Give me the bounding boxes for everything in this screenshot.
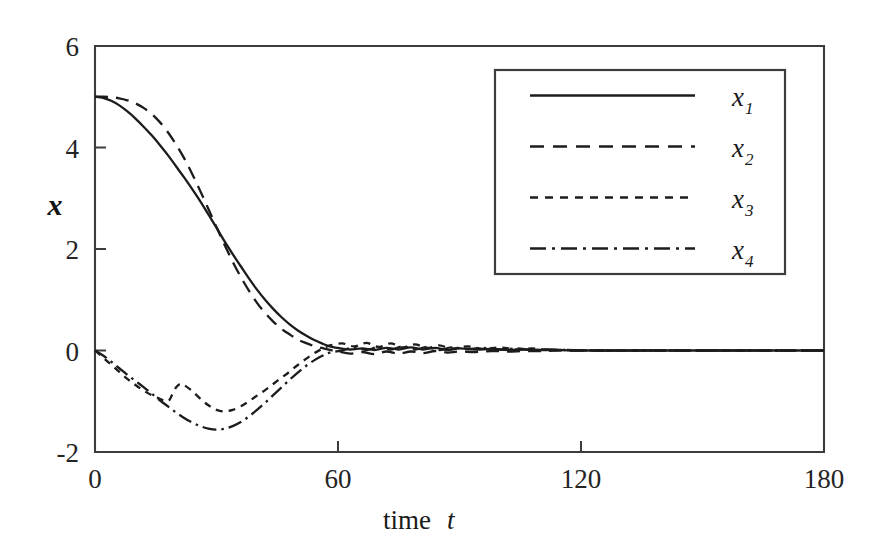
y-tick-label: -2 xyxy=(57,438,80,468)
y-tick-label: 2 xyxy=(66,235,80,265)
x-tick-label: 0 xyxy=(88,464,102,494)
x-tick-label: 120 xyxy=(561,464,602,494)
y-axis-title: x xyxy=(47,188,63,221)
x-axis-title-main: time xyxy=(383,505,431,535)
chart-legend: x1x2x3x4 xyxy=(495,70,785,274)
line-chart: 6420-2 060120180 x time t x1x2x3x4 xyxy=(0,0,883,557)
y-tick-label: 0 xyxy=(66,337,80,367)
y-tick-label: 4 xyxy=(66,134,80,164)
y-tick-label: 6 xyxy=(66,32,80,62)
chart-figure: 6420-2 060120180 x time t x1x2x3x4 xyxy=(0,0,883,557)
x-tick-label: 180 xyxy=(804,464,845,494)
x-tick-label: 60 xyxy=(325,464,352,494)
